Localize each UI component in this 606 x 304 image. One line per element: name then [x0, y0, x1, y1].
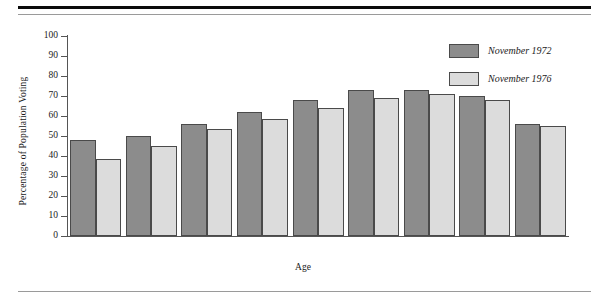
y-axis-tick-label: 20: [32, 190, 58, 200]
chart-legend: November 1972 November 1976: [449, 40, 552, 96]
y-axis-tick: 50: [61, 136, 68, 137]
y-axis-title: Percentage of Population Voting: [18, 41, 28, 241]
legend-item: November 1976: [449, 68, 552, 89]
legend-label: November 1976: [488, 73, 552, 84]
bar[interactable]: [207, 129, 233, 236]
bar[interactable]: [540, 126, 566, 236]
y-axis-tick-label: 60: [32, 110, 58, 120]
x-axis-title: Age: [0, 262, 606, 272]
y-axis-tick-label: 50: [32, 130, 58, 140]
bar[interactable]: [404, 90, 430, 236]
y-axis-tick: 20: [61, 196, 68, 197]
y-axis-tick-label: 80: [32, 70, 58, 80]
bar-group: [70, 36, 121, 236]
bar[interactable]: [126, 136, 152, 236]
bar[interactable]: [318, 108, 344, 236]
y-axis-tick-label: 70: [32, 90, 58, 100]
bar[interactable]: [429, 94, 455, 236]
bar-group: [348, 36, 399, 236]
dark-gray-swatch-icon: [449, 44, 479, 58]
y-axis-tick-label: 0: [32, 230, 58, 240]
y-axis-tick: 100: [61, 36, 68, 37]
y-axis-tick: 60: [61, 116, 68, 117]
y-axis-tick: 90: [61, 56, 68, 57]
y-axis-tick-label: 100: [32, 30, 58, 40]
y-axis-tick: 40: [61, 156, 68, 157]
bar[interactable]: [262, 119, 288, 236]
y-axis-tick: 70: [61, 96, 68, 97]
bar[interactable]: [96, 159, 122, 236]
y-axis-tick: 30: [61, 176, 68, 177]
y-axis-tick-label: 30: [32, 170, 58, 180]
bar[interactable]: [237, 112, 263, 236]
legend-label: November 1972: [488, 45, 552, 56]
bar-chart: Percentage of Population Voting 01020304…: [0, 0, 606, 304]
bar-group: [237, 36, 288, 236]
y-axis-tick-label: 10: [32, 210, 58, 220]
bar[interactable]: [70, 140, 96, 236]
y-axis-tick-label: 40: [32, 150, 58, 160]
y-axis-tick: 80: [61, 76, 68, 77]
y-axis-tick: 10: [61, 216, 68, 217]
bar-group: [404, 36, 455, 236]
bar[interactable]: [181, 124, 207, 236]
bar[interactable]: [348, 90, 374, 236]
bar-group: [181, 36, 232, 236]
legend-item: November 1972: [449, 40, 552, 61]
figure-page: Percentage of Population Voting 01020304…: [0, 0, 606, 304]
bar-group: [293, 36, 344, 236]
y-axis-tick: 0: [61, 236, 68, 237]
light-gray-swatch-icon: [449, 72, 479, 86]
x-axis-line: [67, 236, 569, 237]
bar-group: [126, 36, 177, 236]
bar[interactable]: [374, 98, 400, 236]
bar[interactable]: [293, 100, 319, 236]
bar[interactable]: [515, 124, 541, 236]
bar[interactable]: [459, 96, 485, 236]
y-axis-tick-label: 90: [32, 50, 58, 60]
bar[interactable]: [151, 146, 177, 236]
bar[interactable]: [485, 100, 511, 236]
